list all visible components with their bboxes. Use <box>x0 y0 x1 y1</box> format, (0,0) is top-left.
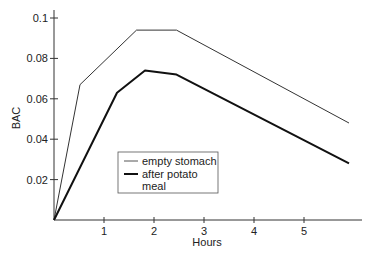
x-tick-label: 1 <box>101 225 107 237</box>
legend-label-empty-stomach: empty stomach <box>142 155 217 167</box>
x-axis-label: Hours <box>192 236 222 248</box>
legend-label-after-potato-meal: after potato <box>142 168 198 180</box>
y-tick-label: 0.06 <box>27 93 48 105</box>
bac-line-chart: 0.020.040.060.080.1 12345 BAC Hours empt… <box>0 0 368 257</box>
y-tick-label: 0.04 <box>27 133 48 145</box>
y-tick-label: 0.1 <box>33 12 48 24</box>
y-tick-label: 0.08 <box>27 52 48 64</box>
x-tick-label: 5 <box>301 225 307 237</box>
y-tick-label: 0.02 <box>27 174 48 186</box>
x-tick-label: 2 <box>151 225 157 237</box>
x-tick-label: 4 <box>251 225 257 237</box>
legend-label-after-potato-meal-cont: meal <box>142 180 166 192</box>
legend: empty stomach after potato meal <box>118 152 218 193</box>
y-axis-label: BAC <box>10 107 22 130</box>
y-ticks: 0.020.040.060.080.1 <box>27 12 58 186</box>
series-line-after-potato-meal <box>54 71 349 220</box>
